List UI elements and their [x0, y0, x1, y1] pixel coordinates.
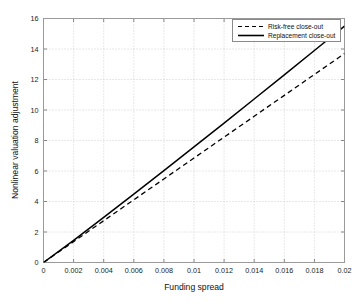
x-tick-label: 0.018	[305, 266, 323, 275]
x-tick-label: 0.012	[215, 266, 233, 275]
y-tick-label: 6	[35, 167, 39, 176]
y-tick-label: 10	[31, 106, 39, 115]
x-tick-label: 0.008	[155, 266, 173, 275]
x-tick-label: 0.002	[65, 266, 83, 275]
x-tick-label: 0.014	[245, 266, 263, 275]
x-tick-label: 0.016	[275, 266, 293, 275]
y-tick-label: 4	[35, 197, 39, 206]
chart-figure: 00.0020.0040.0060.0080.010.0120.0140.016…	[0, 0, 362, 307]
line-chart: 00.0020.0040.0060.0080.010.0120.0140.016…	[0, 0, 362, 307]
x-axis-title: Funding spread	[164, 282, 224, 292]
y-axis-title: Nonlinear valuation adjustment	[10, 80, 20, 199]
figure-background	[0, 0, 362, 307]
chart-legend: Risk-free close-out Replacement close-ou…	[233, 20, 341, 42]
x-tick-label: 0.004	[95, 266, 113, 275]
x-tick-label: 0.01	[187, 266, 201, 275]
y-tick-label: 2	[35, 228, 39, 237]
legend-label-risk-free: Risk-free close-out	[268, 23, 323, 30]
y-tick-label: 0	[35, 258, 39, 267]
x-tick-label: 0.006	[125, 266, 143, 275]
y-tick-label: 16	[31, 14, 39, 23]
y-tick-label: 14	[31, 45, 39, 54]
legend-label-replacement: Replacement close-out	[268, 32, 336, 40]
y-tick-label: 8	[35, 136, 39, 145]
x-tick-label: 0.02	[338, 266, 352, 275]
x-tick-label: 0	[42, 266, 46, 275]
y-tick-label: 12	[31, 75, 39, 84]
